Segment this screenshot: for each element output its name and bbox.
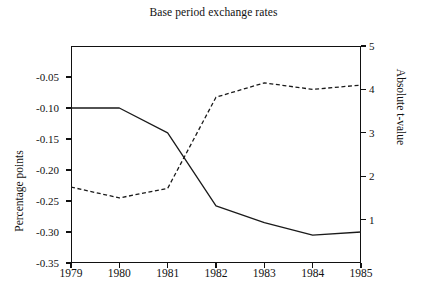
- x-axis-tick-label: 1984: [301, 267, 324, 279]
- y-axis-right-tick-mark: [361, 132, 366, 133]
- y-axis-left-tick-mark: [66, 169, 71, 170]
- y-axis-left-tick-mark: [66, 138, 71, 139]
- chart-title: Base period exchange rates: [0, 6, 427, 18]
- y-axis-left-tick-label: -0.05: [36, 71, 59, 83]
- x-axis-tick-label: 1981: [156, 267, 179, 279]
- series-line-percentage-points: [71, 108, 361, 235]
- chart-container: Base period exchange rates Percentage po…: [0, 0, 427, 294]
- y-axis-left-tick-label: -0.10: [36, 102, 59, 114]
- plot-area: [71, 46, 361, 263]
- x-axis-tick-label: 1980: [108, 267, 131, 279]
- y-axis-right-tick-label: 5: [369, 40, 375, 52]
- x-axis-tick-label: 1983: [253, 267, 276, 279]
- x-axis-tick-label: 1979: [60, 267, 83, 279]
- x-axis-tick-label: 1982: [205, 267, 228, 279]
- y-axis-left-tick-mark: [66, 200, 71, 201]
- y-axis-left-tick-mark: [66, 231, 71, 232]
- y-axis-right-tick-label: 4: [369, 83, 375, 95]
- y-axis-left-title: Percentage points: [13, 131, 25, 251]
- y-axis-right-tick-label: 2: [369, 170, 375, 182]
- y-axis-left-tick-label: -0.35: [36, 257, 59, 269]
- series-line-absolute-t-value: [71, 83, 361, 198]
- y-axis-right-tick-label: 3: [369, 127, 375, 139]
- y-axis-left-tick-mark: [66, 76, 71, 77]
- y-axis-right-tick-mark: [361, 89, 366, 90]
- y-axis-right-tick-mark: [361, 176, 366, 177]
- y-axis-right-tick-mark: [361, 219, 366, 220]
- y-axis-left-tick-label: -0.15: [36, 133, 59, 145]
- y-axis-left-tick-mark: [66, 107, 71, 108]
- y-axis-right-tick-mark: [361, 45, 366, 46]
- y-axis-right-title: Absolute t-value: [395, 47, 407, 167]
- x-axis-tick-label: 1985: [350, 267, 373, 279]
- y-axis-left-tick-label: -0.30: [36, 226, 59, 238]
- y-axis-left-tick-label: -0.20: [36, 164, 59, 176]
- y-axis-right-tick-label: 1: [369, 214, 375, 226]
- y-axis-left-tick-label: -0.25: [36, 195, 59, 207]
